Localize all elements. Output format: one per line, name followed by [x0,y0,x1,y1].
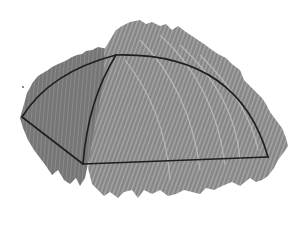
right-shaded-region [88,20,288,198]
stray-dot [22,86,24,88]
spherical-triangle-sketch [0,0,301,225]
sketch-canvas [0,0,301,225]
